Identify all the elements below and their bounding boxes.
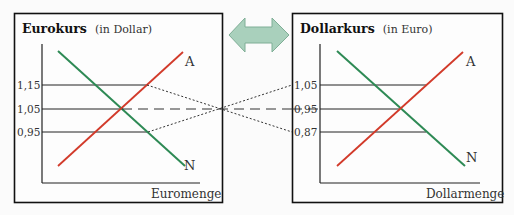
- right-title-bold: Dollarkurs: [300, 21, 375, 36]
- right-title-normal: (in Euro): [383, 23, 433, 36]
- left-x-axis-label: Euromenge: [151, 187, 221, 201]
- left-title-bold: Eurokurs: [22, 21, 87, 36]
- left-tick-low: 0,95: [17, 126, 40, 138]
- left-tick-high: 1,15: [17, 79, 40, 91]
- right-panel-frame: [293, 14, 503, 203]
- left-panel-frame: [15, 14, 223, 203]
- right-panel: Dollarkurs (in Euro) 1,05 0,95 0,87 A N …: [293, 14, 505, 203]
- right-supply-label: A: [465, 54, 476, 69]
- right-tick-low: 0,87: [294, 126, 317, 138]
- left-title-normal: (in Dollar): [95, 23, 152, 36]
- left-panel: Eurokurs (in Dollar) 1,15 1,05 0,95 A N …: [15, 14, 223, 203]
- left-demand-label: N: [184, 158, 195, 173]
- left-supply-label: A: [184, 54, 195, 69]
- right-x-axis-label: Dollarmenge: [426, 187, 504, 201]
- exchange-rate-diagram: Eurokurs (in Dollar) 1,15 1,05 0,95 A N …: [0, 0, 514, 215]
- right-demand-label: N: [466, 150, 477, 165]
- double-arrow-icon: [229, 18, 289, 52]
- right-tick-high: 1,05: [294, 79, 317, 91]
- left-tick-eq: 1,05: [17, 103, 40, 115]
